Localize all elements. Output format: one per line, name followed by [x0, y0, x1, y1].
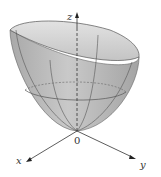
x-axis — [29, 131, 77, 160]
y-axis-arrowhead — [129, 155, 136, 159]
z-axis-arrowhead — [75, 12, 79, 18]
x-axis-arrowhead — [26, 157, 32, 162]
origin-label: 0 — [74, 135, 80, 146]
x-axis-label: x — [16, 155, 22, 166]
z-axis-label: z — [66, 11, 73, 22]
y-axis — [77, 131, 132, 157]
y-axis-label: y — [139, 159, 146, 170]
paraboloid-diagram: z x y 0 — [0, 0, 161, 177]
